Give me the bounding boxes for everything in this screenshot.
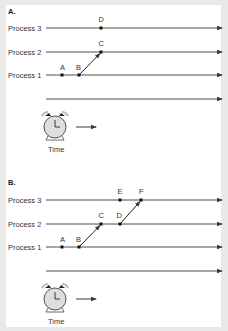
message-arrow-d-to-f xyxy=(120,202,140,225)
message-arrow-b-to-c xyxy=(79,54,100,76)
process-1-label: Process 1 xyxy=(8,71,41,80)
event-d-label: D xyxy=(117,211,123,220)
event-b-dot xyxy=(78,246,81,249)
process-2-label: Process 2 xyxy=(8,48,41,57)
event-d-label: D xyxy=(99,15,105,24)
alarm-clock-icon xyxy=(42,112,68,140)
message-arrow-b-to-c xyxy=(79,226,100,248)
time-label: Time xyxy=(48,317,64,326)
event-e-dot xyxy=(119,199,122,202)
time-label: Time xyxy=(48,145,64,154)
event-ordering-diagram: A. Process 3 Process 2 Process 1 D C A B… xyxy=(0,0,228,331)
process-2-label: Process 2 xyxy=(8,220,41,229)
panel-b-title: B. xyxy=(8,178,16,187)
event-b-label: B xyxy=(76,63,81,72)
event-b-label: B xyxy=(76,235,81,244)
event-a-dot xyxy=(61,74,64,77)
event-d-dot xyxy=(119,223,122,226)
event-e-label: E xyxy=(118,187,123,196)
event-a-dot xyxy=(61,246,64,249)
alarm-clock-icon xyxy=(42,284,68,312)
event-d-dot xyxy=(100,27,103,30)
panel-a-title: A. xyxy=(8,7,16,16)
event-f-dot xyxy=(140,199,143,202)
event-b-dot xyxy=(78,74,81,77)
event-c-label: C xyxy=(99,39,105,48)
process-3-label: Process 3 xyxy=(8,196,41,205)
panel-b: B. Process 3 Process 2 Process 1 E F C D… xyxy=(8,178,222,326)
event-a-label: A xyxy=(60,235,65,244)
panel-a: A. Process 3 Process 2 Process 1 D C A B… xyxy=(8,7,222,154)
event-c-dot xyxy=(100,223,103,226)
event-f-label: F xyxy=(139,187,144,196)
process-1-label: Process 1 xyxy=(8,243,41,252)
event-a-label: A xyxy=(60,63,65,72)
process-3-label: Process 3 xyxy=(8,24,41,33)
event-c-label: C xyxy=(99,211,105,220)
event-c-dot xyxy=(100,51,103,54)
